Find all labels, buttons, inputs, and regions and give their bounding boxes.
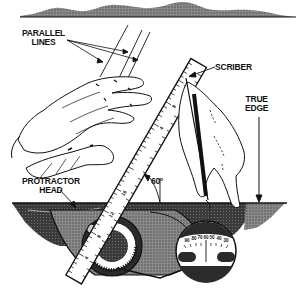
angle-label: 60°	[151, 177, 163, 186]
protractor-head-label: PROTRACTOR HEAD	[22, 177, 80, 195]
level-dial: 90 80 70 60 50 40 30	[176, 221, 236, 283]
label-line: LINES	[22, 38, 65, 47]
dial-number: 80	[191, 236, 197, 241]
true-edge-arrow	[256, 117, 262, 202]
dial-number: 40	[216, 236, 222, 241]
scriber-label: SCRIBER	[215, 63, 252, 72]
horizon-silhouette	[20, 2, 296, 17]
true-edge-label: TRUE EDGE	[245, 95, 268, 113]
right-hand	[179, 82, 245, 208]
label-line: HEAD	[22, 186, 80, 195]
label-line: EDGE	[245, 104, 268, 113]
dial-number: 30	[223, 238, 229, 243]
dial-number: 70	[197, 235, 203, 240]
dial-number: 90	[184, 238, 190, 243]
protractor-illustration: 90 80 70 60 50 40 30 4 8 12 16 4	[0, 0, 304, 291]
dial-number: 60	[203, 235, 209, 240]
left-hand	[11, 77, 151, 158]
dial-number: 50	[209, 235, 215, 240]
parallel-lines-label: PARALLEL LINES	[22, 29, 65, 47]
